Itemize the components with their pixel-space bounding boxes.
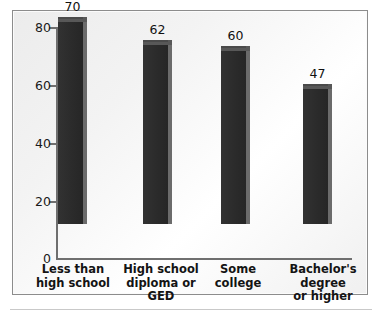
bar-front-face — [143, 44, 168, 224]
y-tick-label: 80 — [35, 20, 51, 35]
bar-value-label: 47 — [303, 66, 332, 81]
bar-body — [221, 50, 250, 224]
bar-high-school-diploma-or-ged[interactable]: 62 — [143, 44, 172, 224]
x-axis-line — [56, 258, 352, 260]
bar-body — [58, 21, 87, 224]
bar-side-face — [83, 21, 87, 224]
bar-side-face — [328, 88, 332, 224]
bar-side-face — [168, 44, 172, 224]
category-label-high-school-diploma-or-ged: High school diploma or GED — [111, 263, 211, 304]
y-tick-label: 60 — [35, 78, 51, 93]
category-label-some-college: Some college — [203, 263, 273, 290]
plot-area: 80 60 40 20 0 70 — [13, 11, 367, 294]
bar-side-face — [246, 50, 250, 224]
bar-value-label: 62 — [143, 22, 172, 37]
chart-figure: 80 60 40 20 0 70 — [12, 10, 368, 295]
bar-bachelors-degree-or-higher[interactable]: 47 — [303, 88, 332, 224]
bar-body — [143, 44, 172, 224]
bar-top-face — [221, 46, 250, 51]
bar-top-face — [303, 84, 332, 89]
bar-body — [303, 88, 332, 224]
category-label-bachelors-degree-or-higher: Bachelor's degree or higher — [269, 263, 377, 304]
bar-top-face — [143, 40, 172, 45]
bar-front-face — [221, 50, 246, 224]
y-tick-label: 20 — [35, 194, 51, 209]
bar-value-label: 60 — [221, 28, 250, 43]
bar-front-face — [303, 88, 328, 224]
y-tick-label: 40 — [35, 136, 51, 151]
bar-some-college[interactable]: 60 — [221, 50, 250, 224]
bottom-divider — [10, 309, 372, 310]
bar-front-face — [58, 21, 83, 224]
bar-less-than-high-school[interactable]: 70 — [58, 21, 87, 224]
category-label-less-than-high-school: Less than high school — [31, 263, 115, 290]
bar-value-label: 70 — [58, 0, 87, 14]
bar-top-face — [58, 17, 87, 22]
